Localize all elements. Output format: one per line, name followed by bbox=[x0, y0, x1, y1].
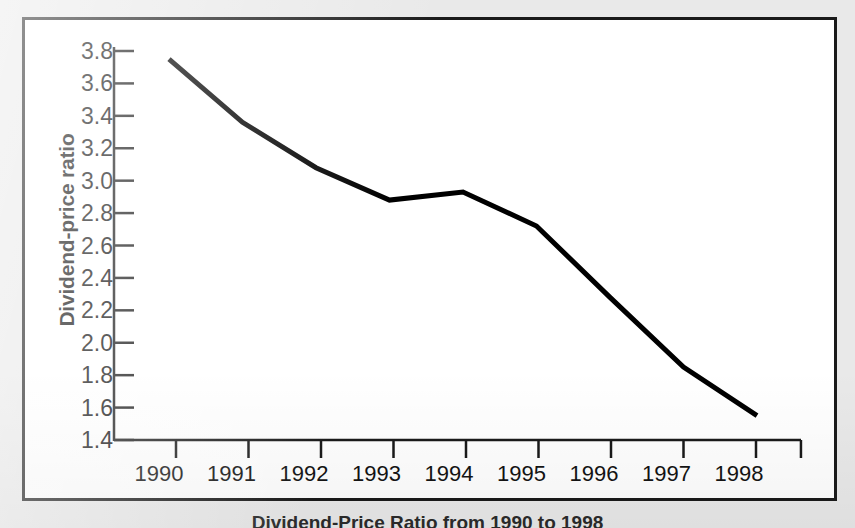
x-axis-tick-label: 1997 bbox=[627, 463, 707, 485]
chart-plot-area: Dividend-price ratio 3.83.63.43.23.02.82… bbox=[25, 20, 834, 498]
x-axis-tick-label: 1992 bbox=[264, 463, 344, 485]
x-axis-tick-label: 1990 bbox=[119, 463, 199, 485]
scanned-page: Dividend-price ratio 3.83.63.43.23.02.82… bbox=[0, 0, 855, 528]
x-axis-tick-label: 1991 bbox=[192, 463, 272, 485]
x-axis-tick-label: 1994 bbox=[409, 463, 489, 485]
figure-frame: Dividend-price ratio 3.83.63.43.23.02.82… bbox=[22, 17, 837, 501]
x-axis-tick-label: 1993 bbox=[337, 463, 417, 485]
figure-caption: Dividend-Price Ratio from 1990 to 1998 bbox=[0, 512, 855, 528]
x-axis-tick-label: 1996 bbox=[554, 463, 634, 485]
x-axis-tick-label: 1998 bbox=[699, 463, 779, 485]
x-axis-tick-labels: 199019911992199319941995199619971998 bbox=[25, 20, 834, 498]
x-axis-tick-label: 1995 bbox=[482, 463, 562, 485]
